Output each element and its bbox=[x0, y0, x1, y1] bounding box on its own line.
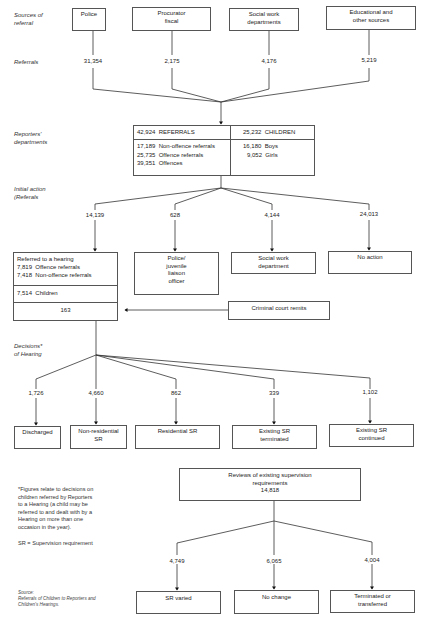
label: CHILDREN bbox=[265, 129, 296, 135]
label: Offences bbox=[159, 160, 183, 166]
hearing-row: 7,418 Non-offence referrals bbox=[17, 272, 92, 280]
hearing-title: Referred to a hearing bbox=[17, 256, 74, 264]
footnote-line: *Figures relate to decisions on bbox=[18, 486, 93, 494]
discharged-box: Discharged bbox=[14, 426, 61, 449]
row-label-line: Reporters' bbox=[14, 131, 47, 139]
box-text: Reviews of existing supervision bbox=[180, 472, 360, 480]
value: 25,232 bbox=[243, 129, 261, 135]
box-text: other sources bbox=[327, 17, 415, 25]
label: Children bbox=[35, 290, 57, 296]
label: Offence referrals bbox=[35, 264, 80, 270]
source-citation: Source: Referrals of Children to Reporte… bbox=[18, 590, 96, 608]
decision-count-terminated: 339 bbox=[269, 390, 279, 396]
value: 9,052 bbox=[247, 152, 262, 158]
breakdown-row: 39,351 Offences bbox=[137, 160, 183, 168]
referrals-total: 42,924 REFERRALS bbox=[137, 129, 195, 137]
value: 39,351 bbox=[137, 160, 155, 166]
box-text: terminated bbox=[233, 436, 316, 444]
box-text: Educational and bbox=[327, 9, 415, 17]
source-box-procurator-fiscal: Procuratorfiscal bbox=[132, 7, 211, 31]
box-text: Existing SR bbox=[233, 428, 316, 436]
referral-count-procurator: 2,175 bbox=[164, 58, 179, 64]
box-text: SR varied bbox=[137, 595, 220, 603]
row-label-referrals: Referrals bbox=[14, 59, 38, 67]
no-action-box: No action bbox=[328, 251, 412, 274]
box-text: Procurator bbox=[133, 10, 210, 18]
row-label-reporters: Reporters' departments bbox=[14, 131, 47, 146]
row-label-line: departments bbox=[14, 139, 47, 147]
row-label-initial-action: Initial action (Referals bbox=[14, 186, 46, 201]
review-count-sr-varied: 4,749 bbox=[169, 558, 184, 564]
children-row: 16,180 Boys bbox=[243, 143, 278, 151]
divider bbox=[134, 139, 314, 140]
referred-to-hearing-box: Referred to a hearing 7,819 Offence refe… bbox=[13, 252, 118, 321]
referral-count-police: 31,354 bbox=[84, 58, 102, 64]
box-text: transferred bbox=[331, 601, 414, 609]
row-label-decisions: Decisions* of Hearing bbox=[14, 343, 42, 358]
social-work-department-box: Social work department bbox=[231, 252, 316, 274]
police-liaison-box: Police/ juvenile liaison officer bbox=[134, 252, 219, 295]
box-text: Criminal court remits bbox=[229, 302, 329, 313]
label: REFERRALS bbox=[159, 129, 195, 135]
hearing-row: 7,819 Offence referrals bbox=[17, 264, 80, 272]
box-text: Non-residential bbox=[71, 428, 126, 436]
box-text: Social work bbox=[232, 255, 315, 263]
box-text: Social work bbox=[230, 11, 298, 19]
box-text: officer bbox=[135, 278, 218, 286]
referral-count-educational: 5,219 bbox=[361, 57, 376, 63]
criminal-court-remits-box: Criminal court remits bbox=[228, 301, 330, 320]
decision-count-discharged: 1,726 bbox=[28, 390, 43, 396]
source-line: Children's Hearings. bbox=[18, 602, 96, 608]
footnote-line: to a Hearing (a child may be bbox=[18, 501, 93, 509]
label: Offence referrals bbox=[159, 152, 204, 158]
reviews-value: 14,818 bbox=[180, 487, 360, 495]
row-label-line: referral bbox=[14, 20, 43, 28]
row-label-sources: Sources of referral bbox=[14, 12, 43, 27]
box-text: Existing SR bbox=[330, 427, 413, 435]
value: 16,180 bbox=[243, 143, 261, 149]
row-label-line: of Hearing bbox=[14, 351, 42, 359]
residential-sr-box: Residential SR bbox=[135, 425, 220, 449]
box-text: Residential SR bbox=[136, 428, 219, 436]
source-box-educational: Educational andother sources bbox=[326, 6, 416, 30]
box-text: department bbox=[232, 263, 315, 271]
children-row: 9,052 Girls bbox=[247, 152, 278, 160]
reporters-departments-box: 42,924 REFERRALS 25,232 CHILDREN 17,189 … bbox=[133, 125, 315, 176]
footnote-line: referred to and dealt with by a bbox=[18, 509, 93, 517]
source-box-social-work: Social workdepartments bbox=[229, 8, 299, 31]
value: 7,514 bbox=[17, 290, 32, 296]
row-label-line: (Referals bbox=[14, 194, 46, 202]
box-text: requirements bbox=[180, 480, 360, 488]
sr-varied-box: SR varied bbox=[136, 591, 221, 614]
breakdown-row: 25,735 Offence referrals bbox=[137, 152, 203, 160]
row-label-line: Sources of bbox=[14, 12, 43, 20]
source-box-police: Police bbox=[72, 8, 106, 31]
no-change-box: No change bbox=[234, 590, 319, 614]
box-text: juvenile bbox=[135, 263, 218, 271]
decision-count-continued: 1,102 bbox=[362, 389, 377, 395]
value: 25,735 bbox=[137, 152, 155, 158]
box-text: Discharged bbox=[15, 429, 60, 437]
value: 7,418 bbox=[17, 272, 32, 278]
initial-action-count-social-work: 4,144 bbox=[264, 212, 279, 218]
review-count-terminated: 4,004 bbox=[364, 557, 379, 563]
children-total: 25,232 CHILDREN bbox=[243, 129, 295, 137]
value: 42,924 bbox=[137, 129, 155, 135]
initial-action-count-hearing: 14,139 bbox=[86, 212, 104, 218]
box-text: liaison bbox=[135, 270, 218, 278]
decision-count-residential: 862 bbox=[171, 390, 181, 396]
review-count-no-change: 6,065 bbox=[266, 558, 281, 564]
box-text: departments bbox=[230, 19, 298, 27]
box-text: No change bbox=[235, 594, 318, 602]
row-label-line: Initial action bbox=[14, 186, 46, 194]
label: Non-offence referrals bbox=[159, 143, 215, 149]
box-text: Police/ bbox=[135, 255, 218, 263]
footnote-line: occasion in the year). bbox=[18, 524, 93, 532]
initial-action-count-police-liaison: 628 bbox=[170, 212, 180, 218]
non-residential-sr-box: Non-residentialSR bbox=[70, 425, 127, 449]
footnote-line: Hearing on more than one bbox=[18, 516, 93, 524]
footnote-line: children referred by Reporters bbox=[18, 494, 93, 502]
box-text: Police bbox=[73, 11, 105, 19]
existing-sr-terminated-box: Existing SRterminated bbox=[232, 425, 317, 449]
existing-sr-continued-box: Existing SRcontinued bbox=[329, 424, 414, 447]
